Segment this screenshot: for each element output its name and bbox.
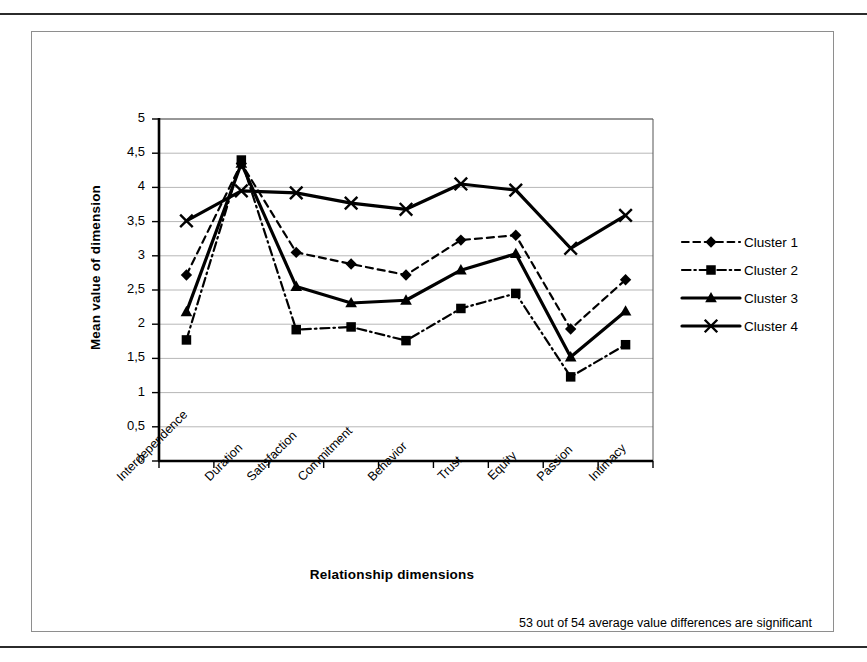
data-point-marker-square [566, 372, 576, 382]
legend-swatch [680, 260, 742, 280]
legend-label: Cluster 4 [742, 319, 798, 334]
data-point-marker-cross [619, 209, 632, 222]
data-point-marker-square [621, 340, 631, 350]
y-axis-tick-label: 3 [105, 247, 145, 262]
data-point-marker-square [401, 336, 411, 346]
data-point-marker-triangle [181, 306, 193, 316]
y-axis-tick-label: 2 [105, 315, 145, 330]
chart-legend: Cluster 1Cluster 2Cluster 3Cluster 4 [680, 228, 832, 340]
data-point-marker-cross [564, 242, 577, 255]
data-point-marker-square [511, 289, 521, 299]
line-chart: Mean value of dimension Relationship dim… [32, 32, 835, 633]
data-point-marker-diamond [345, 258, 356, 269]
legend-item-cluster-2[interactable]: Cluster 2 [680, 256, 832, 284]
series-4 [180, 178, 632, 255]
legend-label: Cluster 2 [742, 263, 798, 278]
data-point-marker-diamond [291, 247, 302, 258]
data-point-marker-square [182, 335, 192, 345]
data-point-marker-square [346, 322, 356, 332]
data-point-marker-square [291, 325, 301, 335]
series-2 [182, 155, 631, 381]
y-axis-tick-label: 4,5 [105, 144, 145, 159]
page-rule-top [0, 13, 867, 15]
page-rule-bottom [0, 646, 867, 648]
legend-swatch [680, 316, 742, 336]
y-axis-tick-label: 1 [105, 384, 145, 399]
y-axis-tick-label: 0,5 [105, 418, 145, 433]
data-point-marker-diamond [705, 236, 716, 247]
y-axis-tick-label: 3,5 [105, 213, 145, 228]
legend-item-cluster-4[interactable]: Cluster 4 [680, 312, 832, 340]
figure-frame: Mean value of dimension Relationship dim… [31, 31, 834, 632]
series-3 [181, 157, 632, 361]
data-point-marker-square [456, 304, 466, 314]
data-point-marker-diamond [181, 269, 192, 280]
figure-caption: 53 out of 54 average value differences a… [362, 616, 812, 630]
scanned-page: Mean value of dimension Relationship dim… [0, 0, 867, 662]
data-point-marker-triangle [510, 248, 522, 258]
legend-swatch [680, 288, 742, 308]
data-point-marker-cross [180, 215, 193, 228]
data-point-marker-diamond [455, 234, 466, 245]
legend-label: Cluster 3 [742, 291, 798, 306]
y-axis-tick-label: 5 [105, 110, 145, 125]
data-point-marker-triangle [620, 305, 632, 315]
legend-label: Cluster 1 [742, 235, 798, 250]
data-point-marker-square [706, 265, 716, 275]
y-axis-tick-label: 1,5 [105, 349, 145, 364]
legend-item-cluster-3[interactable]: Cluster 3 [680, 284, 832, 312]
data-point-marker-diamond [510, 230, 521, 241]
legend-swatch [680, 232, 742, 252]
legend-item-cluster-1[interactable]: Cluster 1 [680, 228, 832, 256]
y-axis-tick-label: 2,5 [105, 281, 145, 296]
data-point-marker-triangle [290, 281, 302, 291]
y-axis-tick-label: 4 [105, 178, 145, 193]
data-point-marker-diamond [400, 269, 411, 280]
